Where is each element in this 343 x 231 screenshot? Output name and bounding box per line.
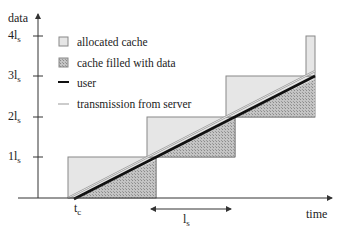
legend-allocated-cache: allocated cache [77, 36, 148, 48]
legend-filled-cache: cache filled with data [77, 57, 176, 69]
y-tick-1ls: 1ls [8, 150, 21, 163]
y-axis-label: data [8, 12, 28, 24]
y-tick-2ls: 2ls [8, 110, 21, 123]
tc-marker: tc [74, 202, 81, 215]
x-axis-label: time [306, 208, 327, 220]
y-tick-4ls: 4ls [8, 29, 21, 42]
cache-diagram [0, 0, 343, 231]
ls-span-label: ls [183, 213, 190, 226]
y-tick-3ls: 3ls [8, 69, 21, 82]
legend-user: user [77, 77, 96, 89]
legend-swatches [58, 37, 69, 104]
user-line [74, 76, 315, 199]
legend-server-transmission: transmission from server [77, 98, 191, 110]
